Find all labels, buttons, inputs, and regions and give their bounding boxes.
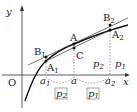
label-B1: B1 — [34, 46, 46, 59]
ratio-p2-inner: p2 — [93, 58, 104, 71]
label-A: A — [69, 32, 78, 43]
label-C: C — [76, 50, 84, 61]
ratio-p1-inner: p1 — [115, 58, 126, 71]
y-axis-arrow — [20, 5, 24, 11]
label-B2: B2 — [103, 12, 115, 25]
label-A2: A2 — [111, 29, 124, 42]
tick-a1: a1 — [40, 75, 50, 88]
ratio-p2-box: p2 — [56, 88, 67, 100]
x-label: x — [123, 76, 129, 87]
origin-label: O — [8, 77, 16, 88]
y-label: y — [5, 6, 12, 17]
ratio-p1-box: p1 — [88, 88, 99, 100]
tick-a2: a2 — [105, 75, 116, 88]
tick-a: a — [71, 75, 77, 86]
diagram: y x O B1 A1 A C B2 A2 a1 a a2 p2 p1 p2 p… — [0, 0, 137, 112]
label-A1: A1 — [46, 62, 59, 75]
